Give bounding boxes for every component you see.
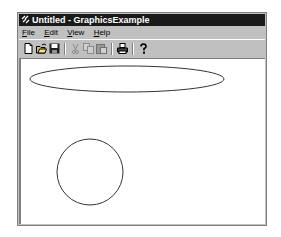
menu-file-label: ile [27, 28, 35, 37]
canvas-shapes [21, 59, 266, 225]
toolbar [19, 39, 265, 59]
open-button[interactable] [36, 43, 47, 54]
circle-shape[interactable] [57, 139, 123, 205]
copy-icon [83, 43, 94, 54]
menu-edit[interactable]: Edit [44, 28, 58, 37]
new-button[interactable] [23, 43, 34, 54]
menu-help[interactable]: Help [94, 28, 110, 37]
menu-bar: File Edit View Help [19, 27, 265, 38]
menu-view-label: iew [72, 28, 84, 37]
paste-button[interactable] [96, 43, 107, 54]
drawing-canvas[interactable] [19, 58, 265, 224]
menu-file[interactable]: File [22, 28, 35, 37]
title-bar[interactable]: Untitled - GraphicsExample [19, 14, 265, 26]
help-about-icon [138, 43, 149, 54]
window-title: Untitled - GraphicsExample [32, 15, 150, 25]
about-button[interactable] [138, 43, 149, 54]
cut-scissors-icon [70, 43, 81, 54]
save-button[interactable] [49, 43, 60, 54]
paste-icon [96, 43, 107, 54]
menu-view[interactable]: View [67, 28, 84, 37]
app-icon [21, 15, 30, 24]
cut-button[interactable] [70, 43, 81, 54]
toolbar-separator [132, 43, 134, 55]
toolbar-separator [64, 43, 66, 55]
menu-help-label: elp [99, 28, 110, 37]
menu-edit-label: dit [49, 28, 57, 37]
toolbar-separator [111, 43, 113, 55]
new-document-icon [23, 43, 34, 54]
print-icon [117, 43, 128, 54]
app-window: Untitled - GraphicsExample File Edit Vie… [17, 12, 267, 226]
save-disk-icon [49, 43, 60, 54]
open-folder-icon [36, 43, 47, 54]
ellipse-shape[interactable] [30, 66, 224, 92]
copy-button[interactable] [83, 43, 94, 54]
print-button[interactable] [117, 43, 128, 54]
